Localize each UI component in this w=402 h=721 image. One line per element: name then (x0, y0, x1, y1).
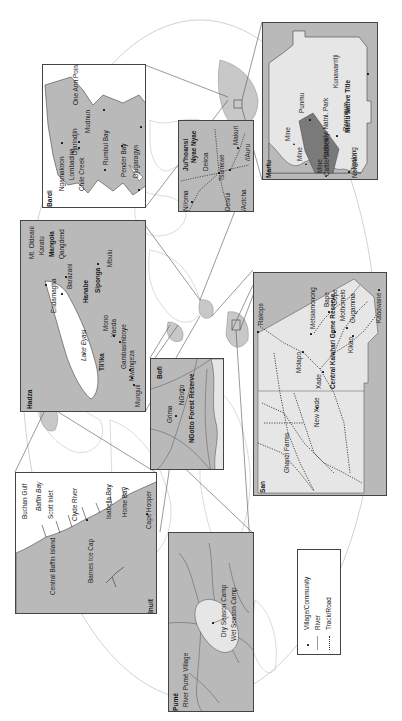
legend-village-symbol (307, 644, 309, 646)
map-label: Hanabe (83, 280, 89, 303)
map-label: Baffin Bay (36, 482, 42, 511)
world-map-figure: Bardi Ngamakoon Lombadina Chile Creek Dj… (0, 0, 402, 721)
map-label: Parnngurr (343, 103, 349, 131)
map-label: Dry Season Camp (221, 585, 227, 637)
map-label: Mono (103, 315, 109, 331)
map-label: New Xade (314, 398, 320, 428)
map-label: Mine (285, 127, 291, 141)
legend-track-symbol (329, 636, 330, 650)
legend-label-river: River (315, 615, 321, 630)
inset-title-pume: Pumé (173, 693, 180, 711)
map-label: Metsiamonong (310, 287, 316, 329)
mine-marker (293, 143, 295, 145)
map-label: Molapo (296, 352, 302, 373)
map-label: Siponga (95, 268, 101, 293)
map-label: Nyae Nyae (191, 131, 197, 163)
inset-title-bofi: Bofi (157, 366, 164, 379)
map-label: Mine (297, 147, 303, 161)
inset-martu: Kunawarritji Martu Native Title Punmu Pa… (262, 22, 378, 180)
map-label: /Aotcha (241, 189, 247, 211)
inset-title-juhoansi: Ju/'hoansi (183, 139, 190, 171)
map-label: NGotto Forest Reserve (189, 373, 195, 443)
inset-title-san: San (260, 481, 267, 493)
map-label: Djarindjin (72, 128, 78, 155)
map-label: Mangola (49, 231, 55, 257)
inset-pume: Pumé River Pumé Village Dry Season Camp … (168, 532, 254, 712)
map-label: Tsumkwe (219, 154, 225, 181)
map-label: Makuri (233, 126, 239, 145)
map-label: Buchan Gulf (22, 484, 28, 519)
map-label: Endamagha (51, 279, 57, 313)
map-label: Mt. Oldeani (29, 226, 35, 259)
inset-title-hadza: Hadza (27, 390, 34, 409)
map-label: Djugaragyn (133, 145, 139, 178)
martu-territory (263, 23, 378, 180)
map-label: Rumbul Bay (103, 130, 109, 165)
map-label: River Pumé Village (183, 653, 189, 707)
legend-label-track: Track/Road (326, 597, 332, 630)
map-label: Tli'ika (99, 353, 105, 371)
map-label: Lake Eyasi (81, 330, 87, 361)
map-label: Central Baffin Island (50, 538, 56, 595)
map-legend: Village/Community River Track/Road (297, 549, 341, 655)
map-label: Cape Hooper (146, 491, 152, 529)
map-label: Den/ui (225, 193, 231, 211)
map-label: Karatu (39, 236, 45, 255)
inset-bardi: Bardi Ngamakoon Lombadina Chile Creek Dj… (42, 64, 146, 208)
map-label: Munguli (135, 385, 141, 407)
map-label: Newman (352, 153, 358, 178)
map-label: Gambasimboye (121, 324, 127, 369)
map-label: Dekoa (203, 153, 209, 171)
map-label: NGotto (179, 385, 185, 405)
map-label: Mwangeza (129, 350, 135, 381)
map-label: //Auru (245, 144, 251, 161)
inset-inuit: Inuit Buchan Gulf Baffin Bay Scott Inlet… (15, 472, 157, 614)
inset-hadza: Hadza Mt. Oldeani Karatu Mangola Qangden… (20, 220, 146, 412)
map-label: Chile Creek (79, 158, 85, 191)
map-label: Scott Inlet (48, 491, 54, 519)
map-label: Barazani (67, 264, 73, 289)
map-label: Rakops (258, 303, 264, 325)
map-label: Ghanzi Farms (284, 433, 290, 473)
inset-title-martu: Martu (266, 160, 273, 178)
mine-marker (305, 163, 307, 165)
map-label: Barnes Ice Cap (88, 539, 94, 583)
map-label: Xade (316, 374, 322, 389)
legend-label-village: Village/Community (304, 577, 310, 630)
map-label: Kaudwane (376, 293, 382, 323)
inset-title-bardi: Bardi (47, 190, 54, 207)
inset-bofi: Bofi NGotto Grima NGotto Forest Reserve (150, 358, 224, 470)
inset-juhoansi: Ju/'hoansi Nyae Nyae N//oma Dekoa Tsumkw… (178, 120, 254, 212)
map-label: Mothomelo (340, 289, 346, 321)
legend-river-symbol (317, 636, 318, 650)
map-label: Home Bay (122, 487, 128, 517)
map-label: Gugamma (350, 293, 356, 323)
map-label: Clyde River (72, 488, 78, 521)
inset-san: San Rakops Metsiamonong Bape Gope Mothom… (253, 272, 387, 496)
map-label: Grima (167, 406, 173, 423)
map-label: Isabella Bay (106, 484, 112, 519)
map-label: Pender Bay (121, 144, 127, 177)
map-label: Ngamakoon (59, 157, 65, 191)
inset-title-inuit: Inuit (148, 599, 155, 613)
map-label: Kunawarritji (333, 55, 339, 88)
map-label: Central Kalahari Game Reserve (330, 294, 336, 389)
map-label: Qangdend (59, 229, 65, 259)
map-label: Mbulu (107, 250, 113, 267)
map-label: One Arm Point (73, 64, 79, 105)
map-label: Cattle Station (324, 138, 330, 176)
map-label: Kikao (348, 337, 354, 353)
map-label: Mudnun (85, 110, 91, 133)
map-label: Wet Season Camp (231, 587, 237, 641)
map-label: N//oma (183, 190, 189, 211)
map-label: Punmu (299, 93, 305, 113)
map-label: Yaeda (111, 319, 117, 337)
